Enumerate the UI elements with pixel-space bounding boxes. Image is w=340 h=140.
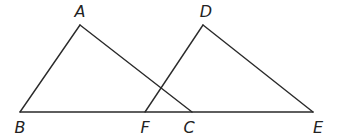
triangle-abc — [20, 25, 192, 112]
segment-ab — [20, 25, 80, 112]
segment-ac — [80, 25, 192, 112]
segment-df — [145, 25, 203, 112]
label-b: B — [15, 118, 26, 137]
label-c: C — [183, 118, 195, 137]
triangle-dfe — [145, 25, 313, 112]
label-a: A — [74, 2, 86, 21]
label-f: F — [140, 118, 150, 137]
label-e: E — [313, 118, 324, 137]
geometry-diagram: A B F C D E — [0, 0, 340, 140]
label-d: D — [200, 2, 212, 21]
segment-de — [203, 25, 313, 112]
